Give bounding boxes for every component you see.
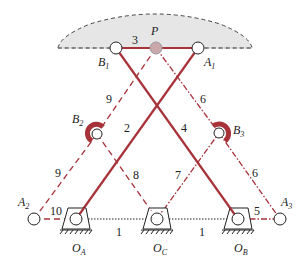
pin-A2 — [28, 213, 40, 225]
pin-P — [150, 42, 162, 54]
label-link-1a: 1 — [116, 225, 122, 239]
label-point-B2: B2 — [72, 112, 83, 128]
label-point-A1: A1 — [203, 55, 215, 71]
label-link-8: 8 — [133, 168, 139, 182]
label-point-OA: OA — [72, 241, 86, 257]
label-link-9b: 9 — [55, 166, 61, 180]
label-link-2: 2 — [124, 121, 130, 135]
pin-OC — [151, 213, 163, 225]
link-7 — [157, 133, 219, 219]
label-point-OB: OB — [234, 241, 248, 257]
pin-A1 — [192, 42, 204, 54]
label-link-4: 4 — [181, 121, 187, 135]
label-point-A3: A3 — [280, 195, 292, 211]
pin-B2 — [92, 129, 102, 139]
mechanism-diagram: 3 2 4 9 9 8 7 6 6 10 5 1 1 P B1 A1 B2 B3… — [0, 0, 305, 270]
label-point-A2: A2 — [17, 195, 29, 211]
label-point-B3: B3 — [233, 123, 244, 139]
label-link-1b: 1 — [199, 225, 205, 239]
link-9-lower — [34, 134, 97, 219]
pin-OA — [70, 213, 82, 225]
label-link-3: 3 — [132, 33, 138, 47]
label-link-10: 10 — [50, 204, 62, 218]
label-link-6b: 6 — [252, 166, 258, 180]
pin-A3 — [274, 213, 286, 225]
label-link-7: 7 — [175, 168, 181, 182]
label-point-P: P — [150, 24, 159, 38]
label-link-6a: 6 — [200, 92, 206, 106]
label-point-B1: B1 — [98, 55, 109, 71]
pin-OB — [232, 213, 244, 225]
label-point-OC: OC — [153, 241, 168, 257]
pin-B3 — [214, 128, 224, 138]
pin-B1 — [110, 42, 122, 54]
label-link-9a: 9 — [106, 92, 112, 106]
label-link-5: 5 — [254, 204, 260, 218]
